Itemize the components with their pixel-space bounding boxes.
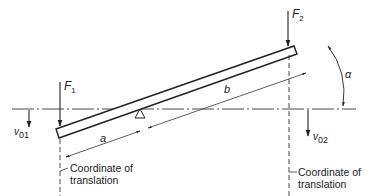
angle-alpha-label: α bbox=[345, 69, 351, 80]
dimension-b-label: b bbox=[224, 84, 230, 95]
left-caption-leader bbox=[60, 168, 68, 171]
velocity-v02-label: v02 bbox=[313, 132, 328, 145]
left-caption-line-1: Coordinate of bbox=[70, 162, 133, 174]
force-f1-label: F1 bbox=[64, 80, 76, 95]
left-coordinate-caption: Coordinate of translation bbox=[70, 162, 133, 186]
lever-diagram: F1 F2 v01 v02 a b α Coordinate of transl… bbox=[0, 0, 366, 196]
dimension-a-label: a bbox=[100, 133, 106, 144]
left-caption-line-2: translation bbox=[70, 174, 133, 186]
right-coordinate-caption: Coordinate of translation bbox=[298, 166, 361, 190]
dimension-b-line bbox=[148, 73, 306, 128]
angle-alpha-arc bbox=[328, 46, 344, 106]
velocity-v01-label: v01 bbox=[14, 127, 29, 140]
right-caption-line-1: Coordinate of bbox=[298, 166, 361, 178]
force-f2-label: F2 bbox=[292, 8, 304, 23]
beam bbox=[56, 46, 297, 138]
right-caption-line-2: translation bbox=[298, 178, 361, 190]
